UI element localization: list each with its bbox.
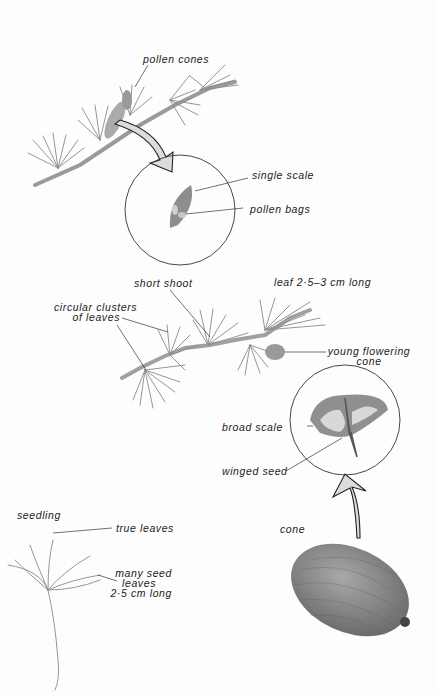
seedling-illustration bbox=[8, 540, 100, 690]
label-young-cone-line2: cone bbox=[326, 356, 412, 366]
label-true-leaves: true leaves bbox=[116, 523, 174, 533]
label-seedling: seedling bbox=[17, 510, 61, 520]
label-young-flowering-cone: young flowering cone bbox=[326, 346, 412, 366]
label-broad-scale: broad scale bbox=[222, 422, 283, 432]
label-seed-leaves-line3: 2·5 cm long bbox=[100, 588, 172, 598]
label-pollen-bags: pollen bags bbox=[250, 204, 310, 214]
broad-scale-illustration bbox=[310, 395, 388, 457]
cone-illustration bbox=[276, 526, 424, 655]
label-seed-leaves: many seed leaves 2·5 cm long bbox=[100, 568, 172, 598]
flowering-branch-leaders bbox=[117, 290, 326, 370]
flowering-branch-illustration bbox=[122, 298, 325, 408]
up-arrow-icon bbox=[333, 474, 366, 538]
label-pollen-cones: pollen cones bbox=[143, 54, 209, 64]
label-single-scale: single scale bbox=[252, 170, 314, 180]
label-short-shoot: short shoot bbox=[134, 278, 193, 288]
label-winged-seed: winged seed bbox=[222, 466, 288, 476]
label-circular-clusters-line2: of leaves bbox=[54, 312, 120, 322]
label-cone: cone bbox=[280, 524, 305, 534]
label-leaf-length: leaf 2·5–3 cm long bbox=[274, 277, 371, 287]
label-circular-clusters: circular clusters of leaves bbox=[54, 302, 132, 322]
curved-arrow-icon bbox=[115, 120, 173, 172]
pollen-cones-leader bbox=[135, 65, 148, 87]
